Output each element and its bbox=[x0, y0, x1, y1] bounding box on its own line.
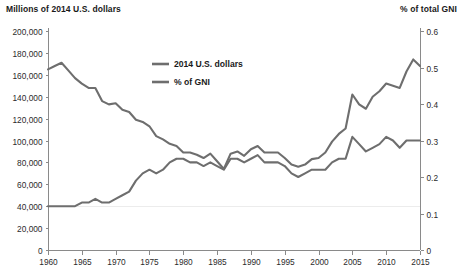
legend-label: % of GNI bbox=[174, 77, 210, 87]
x-axis-tick-label: 1990 bbox=[242, 257, 261, 267]
x-axis-tick-label: 2000 bbox=[310, 257, 329, 267]
y-axis-tick-label: 60,000 bbox=[17, 180, 43, 190]
y-axis-tick-label: 140,000 bbox=[13, 93, 43, 103]
x-axis-tick-label: 2015 bbox=[411, 257, 430, 267]
x-axis-tick-label: 1965 bbox=[73, 257, 92, 267]
y2-axis-tick-label: 0.2 bbox=[427, 173, 439, 183]
y2-axis-tick-label: 0.1 bbox=[427, 210, 439, 220]
y-axis-tick-label: 100,000 bbox=[13, 137, 43, 147]
y-axis-tick-label: 200,000 bbox=[13, 27, 43, 37]
x-axis-tick-label: 2010 bbox=[377, 257, 396, 267]
series-line-2014-u-s-dollars bbox=[48, 59, 420, 169]
y-axis-tick-label: 20,000 bbox=[17, 224, 43, 234]
x-axis-tick-label: 1975 bbox=[140, 257, 159, 267]
series-group bbox=[48, 59, 420, 206]
y2-axis-tick-label: 0.6 bbox=[427, 27, 439, 37]
y-axis-tick-label: 120,000 bbox=[13, 115, 43, 125]
y-axis-tick-label: 0 bbox=[38, 246, 43, 256]
y2-axis-tick-label: 0.4 bbox=[427, 100, 439, 110]
x-axis-tick-label: 1985 bbox=[208, 257, 227, 267]
line-chart-plot: 020,00040,00060,00080,000100,000120,0001… bbox=[0, 0, 463, 271]
x-axis-tick-label: 1980 bbox=[174, 257, 193, 267]
y-axis-tick-label: 180,000 bbox=[13, 49, 43, 59]
x-axis-tick-label: 2005 bbox=[343, 257, 362, 267]
y2-axis-tick-label: 0.3 bbox=[427, 137, 439, 147]
x-axis-tick-label: 1995 bbox=[276, 257, 295, 267]
x-axis: 1960196519701975198019851990199520002005… bbox=[39, 251, 430, 267]
y2-axis-tick-label: 0 bbox=[427, 246, 432, 256]
legend-label: 2014 U.S. dollars bbox=[174, 59, 243, 69]
x-axis-tick-label: 1970 bbox=[107, 257, 126, 267]
left-axis: 020,00040,00060,00080,000100,000120,0001… bbox=[13, 27, 49, 256]
y2-axis-tick-label: 0.5 bbox=[427, 64, 439, 74]
y-axis-tick-label: 80,000 bbox=[17, 158, 43, 168]
chart-container: Millions of 2014 U.S. dollars % of total… bbox=[0, 0, 463, 271]
x-axis-tick-label: 1960 bbox=[39, 257, 58, 267]
series-line-of-gni bbox=[48, 137, 420, 206]
y-axis-tick-label: 160,000 bbox=[13, 71, 43, 81]
y-axis-tick-label: 40,000 bbox=[17, 202, 43, 212]
right-axis: 00.10.20.30.40.50.6 bbox=[421, 27, 439, 256]
chart-legend: 2014 U.S. dollars% of GNI bbox=[152, 59, 243, 87]
